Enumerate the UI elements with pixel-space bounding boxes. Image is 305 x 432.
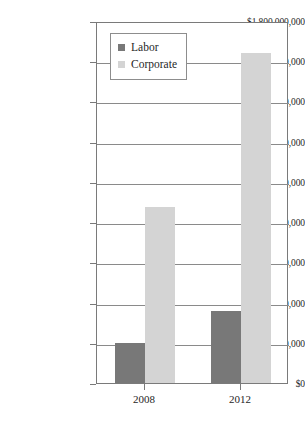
bar-corporate-2008 [145,207,175,383]
legend-swatch-labor-icon [118,44,125,51]
bar-labor-2012 [211,311,241,383]
bar-chart: $0$200,000,000$400,000,000$600,000,000$8… [0,0,305,432]
legend-label-labor: Labor [131,41,158,54]
x-axis-tick-label: 2012 [205,392,275,406]
legend-item-corporate: Corporate [118,56,177,73]
x-axis-tickmark [240,384,241,390]
legend-swatch-corporate-icon [118,61,125,68]
chart-legend: Labor Corporate [110,33,187,80]
bar-corporate-2012 [241,53,271,383]
x-axis-tickmark [144,384,145,390]
legend-label-corporate: Corporate [131,58,177,71]
bar-labor-2008 [115,343,145,383]
legend-item-labor: Labor [118,39,177,56]
x-axis-tick-label: 2008 [109,392,179,406]
y-axis-tickmark [90,384,96,385]
